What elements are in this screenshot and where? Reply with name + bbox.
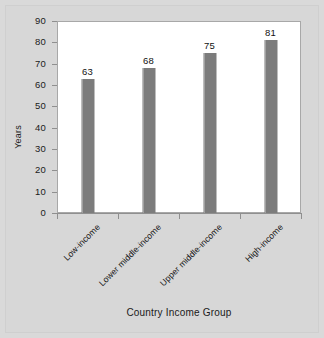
bar [203, 53, 216, 213]
bar-value-label: 68 [143, 55, 154, 66]
y-axis-tick-label: 0 [41, 207, 46, 218]
y-axis-tick-label: 50 [35, 100, 46, 111]
bar-series: 63687581 [57, 21, 301, 213]
y-axis-tick-label: 70 [35, 58, 46, 69]
bar-value-label: 81 [265, 27, 276, 38]
y-axis-tick-label: 20 [35, 164, 46, 175]
chart-figure: Years 9080706050403020100 63687581 Low-i… [0, 0, 324, 338]
y-axis-tick-label: 10 [35, 186, 46, 197]
x-axis-title: Country Income Group [57, 307, 301, 318]
bar-value-label: 75 [204, 40, 215, 51]
x-axis-tick-mark [179, 213, 180, 219]
bar-value-label: 63 [82, 66, 93, 77]
bar-slot: 81 [240, 21, 301, 213]
y-axis-tick-label: 60 [35, 79, 46, 90]
x-axis-tick-mark [240, 213, 241, 219]
bar-slot: 75 [179, 21, 240, 213]
y-axis-tick-label: 30 [35, 143, 46, 154]
x-axis-tick-mark [118, 213, 119, 219]
bar-slot: 68 [118, 21, 179, 213]
y-axis-title: Years [13, 107, 23, 167]
y-axis-tick-label: 40 [35, 122, 46, 133]
bar-slot: 63 [57, 21, 118, 213]
bar [81, 79, 94, 213]
bar [142, 68, 155, 213]
x-axis-tick-mark [57, 213, 58, 219]
y-axis-tick-label: 80 [35, 36, 46, 47]
y-axis-tick-label: 90 [35, 15, 46, 26]
bar [264, 40, 277, 213]
x-axis-tick-mark [301, 213, 302, 219]
